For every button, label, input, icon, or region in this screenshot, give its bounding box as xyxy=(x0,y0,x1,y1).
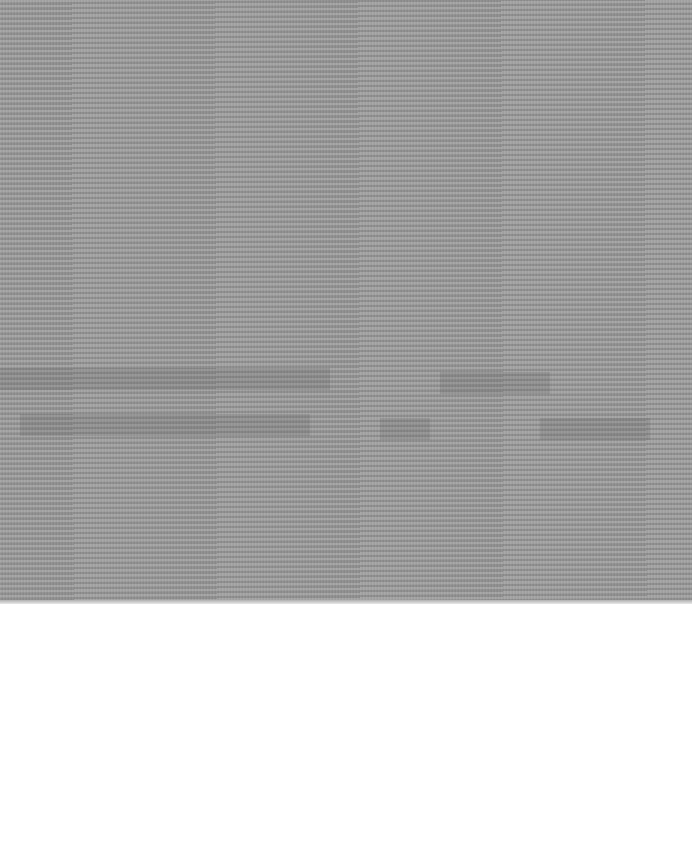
moire-surface xyxy=(0,0,692,603)
dark-band xyxy=(0,368,330,390)
dark-band xyxy=(540,418,650,440)
dark-band xyxy=(440,372,550,394)
dark-band xyxy=(20,414,310,436)
white-paper xyxy=(0,604,692,850)
dark-band xyxy=(380,418,430,440)
